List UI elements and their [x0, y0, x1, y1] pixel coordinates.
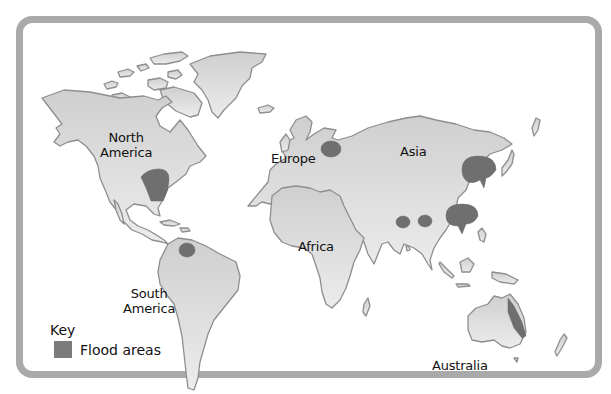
borneo [460, 258, 474, 272]
flood-area-europe [321, 141, 341, 157]
label-north-america: North America [100, 130, 152, 160]
greenland [190, 52, 266, 118]
sri-lanka [406, 246, 410, 251]
iceland [258, 105, 274, 113]
label-asia: Asia [400, 144, 426, 159]
new-guinea [492, 272, 518, 284]
sumatra [439, 262, 454, 278]
key-item-flood-areas: Flood areas [54, 341, 161, 358]
new-zealand [555, 334, 567, 356]
label-north: North [100, 130, 152, 145]
philippines [478, 228, 486, 242]
label-europe: Europe [271, 151, 316, 166]
key-label: Flood areas [80, 342, 161, 358]
flood-area-south-america [179, 243, 195, 257]
madagascar [363, 298, 370, 316]
hispaniola [180, 228, 190, 232]
flood-swatch-icon [54, 341, 72, 358]
label-africa: Africa [298, 239, 334, 254]
flood-area-india [396, 216, 410, 228]
label-america: America [100, 145, 152, 160]
flood-area-southern-china [446, 204, 478, 234]
key-title: Key [50, 322, 75, 338]
world-map [0, 0, 611, 394]
flood-area-bangladesh [418, 215, 432, 227]
britain [280, 134, 290, 152]
cuba [160, 220, 180, 226]
kamchatka [532, 118, 540, 136]
label-south-america: South America [123, 286, 175, 316]
label-australia: Australia [432, 358, 488, 373]
tasmania [514, 358, 518, 362]
japan [502, 150, 514, 176]
label-south: South [123, 286, 175, 301]
label-america-south: America [123, 301, 175, 316]
java [456, 284, 470, 287]
